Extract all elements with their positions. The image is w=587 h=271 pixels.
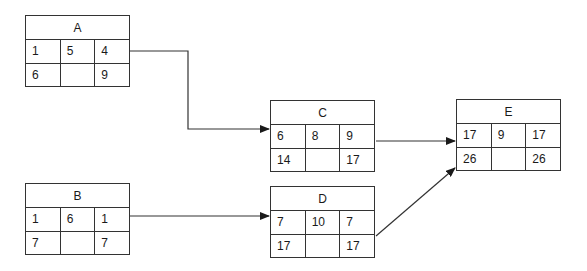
node-b-top-row: 1 6 1 bbox=[26, 208, 129, 231]
node-c-early-start: 6 bbox=[271, 125, 305, 148]
node-a: A 1 5 4 6 9 bbox=[25, 15, 130, 87]
node-a-duration: 5 bbox=[60, 40, 95, 63]
node-b-late-start: 7 bbox=[26, 232, 60, 254]
node-c-duration: 8 bbox=[305, 125, 340, 148]
node-d-late-start: 17 bbox=[271, 235, 305, 257]
node-c-bottom-row: 14 17 bbox=[271, 148, 374, 171]
node-e-bottom-row: 26 26 bbox=[457, 147, 560, 170]
node-b-slack bbox=[60, 232, 95, 254]
node-c-slack bbox=[305, 149, 340, 171]
node-a-slack bbox=[60, 64, 95, 86]
node-a-bottom-row: 6 9 bbox=[26, 63, 129, 86]
node-c-label: C bbox=[271, 101, 374, 125]
node-d-early-finish: 7 bbox=[339, 211, 374, 234]
node-c: C 6 8 9 14 17 bbox=[270, 100, 375, 172]
node-e-early-finish: 17 bbox=[525, 124, 560, 147]
node-d-early-start: 7 bbox=[271, 211, 305, 234]
node-e-top-row: 17 9 17 bbox=[457, 124, 560, 147]
node-a-late-finish: 9 bbox=[94, 64, 129, 86]
node-b-duration: 6 bbox=[60, 208, 95, 231]
node-c-late-start: 14 bbox=[271, 149, 305, 171]
edge-d-to-e bbox=[376, 168, 455, 236]
node-b-early-start: 1 bbox=[26, 208, 60, 231]
node-a-early-start: 1 bbox=[26, 40, 60, 63]
node-a-label: A bbox=[26, 16, 129, 40]
node-e-duration: 9 bbox=[491, 124, 526, 147]
node-a-early-finish: 4 bbox=[94, 40, 129, 63]
node-e-late-start: 26 bbox=[457, 148, 491, 170]
node-d: D 7 10 7 17 17 bbox=[270, 186, 375, 258]
node-b-early-finish: 1 bbox=[94, 208, 129, 231]
node-b-late-finish: 7 bbox=[94, 232, 129, 254]
node-e-label: E bbox=[457, 100, 560, 124]
node-d-top-row: 7 10 7 bbox=[271, 211, 374, 234]
node-d-slack bbox=[305, 235, 340, 257]
node-a-late-start: 6 bbox=[26, 64, 60, 86]
node-b-bottom-row: 7 7 bbox=[26, 231, 129, 254]
node-e-early-start: 17 bbox=[457, 124, 491, 147]
node-a-top-row: 1 5 4 bbox=[26, 40, 129, 63]
node-d-late-finish: 17 bbox=[339, 235, 374, 257]
node-e: E 17 9 17 26 26 bbox=[456, 99, 561, 171]
node-d-duration: 10 bbox=[305, 211, 340, 234]
node-e-late-finish: 26 bbox=[525, 148, 560, 170]
node-d-bottom-row: 17 17 bbox=[271, 234, 374, 257]
node-c-top-row: 6 8 9 bbox=[271, 125, 374, 148]
node-c-early-finish: 9 bbox=[339, 125, 374, 148]
node-d-label: D bbox=[271, 187, 374, 211]
node-b-label: B bbox=[26, 184, 129, 208]
node-c-late-finish: 17 bbox=[339, 149, 374, 171]
edge-a-to-c bbox=[130, 51, 269, 129]
node-e-slack bbox=[491, 148, 526, 170]
node-b: B 1 6 1 7 7 bbox=[25, 183, 130, 255]
